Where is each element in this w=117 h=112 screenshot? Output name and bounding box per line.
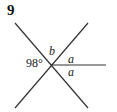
intersecting-lines-diagram bbox=[0, 0, 117, 112]
angle-label-98: 98° bbox=[26, 57, 43, 69]
angle-label-a-lower: a bbox=[68, 66, 74, 78]
angle-label-b: b bbox=[49, 45, 55, 57]
angle-label-a-upper: a bbox=[68, 53, 74, 65]
